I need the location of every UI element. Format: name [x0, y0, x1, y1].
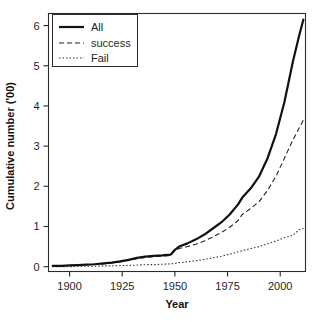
y-tick-label: 0 [33, 261, 39, 273]
y-axis-title: Cumulative number ('00) [4, 82, 16, 210]
legend-label-success: success [91, 37, 131, 49]
y-tick-label: 2 [33, 180, 39, 192]
y-tick-label: 4 [33, 100, 39, 112]
chart-legend: All success Fail [53, 15, 138, 67]
x-axis-title: Year [165, 298, 189, 310]
x-tick-label: 1900 [57, 280, 81, 292]
x-tick-label: 1925 [110, 280, 134, 292]
y-tick-label: 6 [33, 20, 39, 32]
legend-label-all: All [91, 21, 103, 33]
y-tick-label: 5 [33, 60, 39, 72]
legend-label-fail: Fail [91, 52, 109, 64]
x-tick-label: 1975 [215, 280, 239, 292]
y-tick-label: 1 [33, 220, 39, 232]
cumulative-number-line-chart: 0123456 19001925195019752000 Year Cumula… [0, 0, 321, 322]
x-tick-label: 1950 [163, 280, 187, 292]
chart-canvas: 0123456 19001925195019752000 Year Cumula… [0, 0, 321, 322]
x-tick-label: 2000 [268, 280, 292, 292]
y-tick-label: 3 [33, 140, 39, 152]
